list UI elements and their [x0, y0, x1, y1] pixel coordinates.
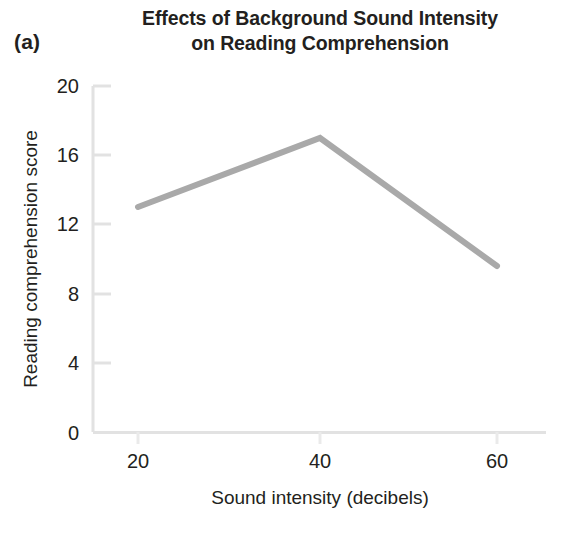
line-chart: 20 16 12 8 4 0 20 40 60 Sound intensity … — [0, 0, 580, 533]
x-tick-label-40: 40 — [309, 450, 331, 472]
y-tick-label-0: 0 — [68, 422, 79, 444]
y-axis-title: Reading comprehension score — [20, 130, 41, 388]
y-tick-label-4: 4 — [68, 352, 79, 374]
y-axis-ticks — [93, 86, 111, 363]
x-tick-label-20: 20 — [127, 450, 149, 472]
y-tick-label-8: 8 — [68, 283, 79, 305]
x-tick-label-60: 60 — [486, 450, 508, 472]
data-line-series — [138, 138, 497, 266]
y-tick-label-20: 20 — [57, 75, 79, 97]
y-tick-label-12: 12 — [57, 213, 79, 235]
figure-panel: (a) Effects of Background Sound Intensit… — [0, 0, 580, 533]
x-axis-title: Sound intensity (decibels) — [211, 487, 429, 508]
y-tick-label-16: 16 — [57, 144, 79, 166]
